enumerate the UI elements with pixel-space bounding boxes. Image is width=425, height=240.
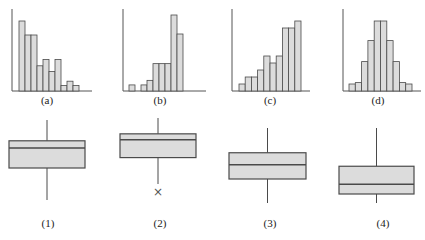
- histogram-bar: [25, 35, 31, 91]
- histogram-bar: [147, 80, 153, 91]
- histogram-bar: [289, 28, 295, 91]
- histogram-bar: [55, 60, 61, 92]
- boxplot-3-label: (3): [264, 217, 277, 229]
- histogram-bar: [251, 77, 257, 91]
- outlier-marker: ×: [153, 185, 163, 199]
- histogram-bar: [381, 21, 387, 91]
- histogram-bar: [67, 81, 73, 91]
- boxplot-4: [339, 128, 414, 203]
- histogram-bar: [239, 84, 245, 91]
- histogram-bar: [165, 64, 171, 91]
- histogram-bar: [270, 63, 276, 91]
- histogram-bar: [31, 35, 37, 91]
- histogram-a: [12, 9, 92, 91]
- histogram-bar: [368, 41, 374, 91]
- histogram-bar: [258, 70, 264, 91]
- histogram-d: [343, 9, 421, 91]
- histogram-bar: [393, 62, 399, 91]
- histogram-bar: [355, 83, 361, 91]
- histogram-c-label: (c): [264, 94, 276, 106]
- histogram-bar: [129, 85, 135, 91]
- histogram-bar: [159, 64, 165, 91]
- histogram-bar: [37, 66, 43, 91]
- bars: [239, 21, 301, 91]
- histogram-bar: [177, 34, 183, 91]
- histogram-bar: [19, 21, 25, 91]
- box: [120, 134, 196, 158]
- histogram-bar: [276, 56, 282, 91]
- boxplot-1: [9, 120, 85, 200]
- box: [9, 141, 85, 168]
- histogram-bar: [245, 77, 251, 91]
- histogram-c: [232, 9, 310, 91]
- histogram-b-label: (b): [154, 94, 167, 106]
- histogram-bar: [153, 64, 159, 91]
- histogram-bar: [362, 62, 368, 91]
- histogram-bar: [73, 85, 79, 91]
- histogram-bar: [43, 60, 49, 92]
- boxplot-2: ×: [120, 118, 196, 199]
- histogram-bar: [374, 21, 380, 91]
- histogram-bar: [349, 84, 355, 91]
- histogram-bar: [406, 84, 412, 91]
- bars: [129, 15, 183, 91]
- histogram-bar: [141, 85, 147, 91]
- histogram-bar: [61, 85, 67, 91]
- box: [339, 166, 414, 194]
- figure-svg: ×: [0, 0, 425, 240]
- boxplot-3: [229, 128, 306, 203]
- histogram-b: [123, 9, 206, 91]
- histogram-bar: [282, 28, 288, 91]
- histogram-bar: [399, 83, 405, 91]
- histogram-a-label: (a): [41, 94, 53, 106]
- bars: [19, 21, 79, 91]
- histogram-bar: [295, 21, 301, 91]
- box: [229, 153, 306, 179]
- figure-canvas: × (a) (b) (c) (d) (1) (2) (3) (4): [0, 0, 425, 240]
- histogram-bar: [171, 15, 177, 91]
- histogram-bar: [264, 56, 270, 91]
- boxplot-4-label: (4): [377, 217, 390, 229]
- bars: [349, 21, 412, 91]
- histogram-d-label: (d): [372, 94, 385, 106]
- histogram-bar: [387, 41, 393, 91]
- histogram-bar: [49, 71, 55, 91]
- boxplot-2-label: (2): [154, 217, 167, 229]
- boxplot-1-label: (1): [42, 217, 55, 229]
